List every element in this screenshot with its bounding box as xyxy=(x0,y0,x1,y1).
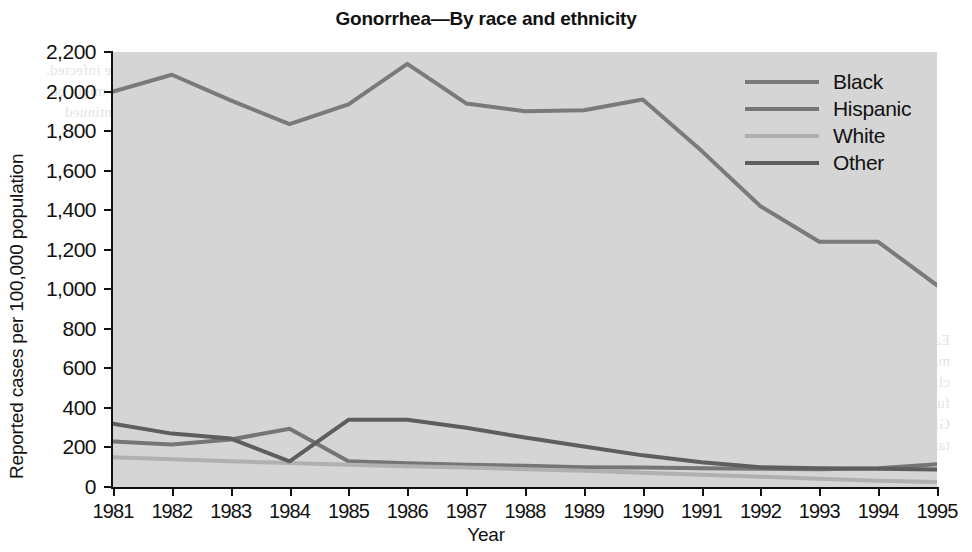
y-tick-label: 2,200 xyxy=(10,40,96,64)
legend-swatch-white xyxy=(745,134,819,138)
y-tick-label: 1,600 xyxy=(10,159,96,183)
chart-figure: of the people in the household are infec… xyxy=(0,0,972,552)
legend-item-hispanic: Hispanic xyxy=(745,95,930,122)
legend-swatch-hispanic xyxy=(745,107,819,111)
y-tick-label: 200 xyxy=(10,435,96,459)
y-tick-label: 800 xyxy=(10,317,96,341)
legend-label: White xyxy=(833,124,885,148)
y-tick-label: 1,400 xyxy=(10,198,96,222)
x-axis-spine xyxy=(111,487,937,489)
legend-label: Black xyxy=(833,70,883,94)
chart-legend: BlackHispanicWhiteOther xyxy=(745,68,930,176)
legend-swatch-other xyxy=(745,161,819,165)
y-tick-label: 2,000 xyxy=(10,80,96,104)
legend-label: Other xyxy=(833,151,884,175)
legend-item-black: Black xyxy=(745,68,930,95)
y-tick-label: 1,000 xyxy=(10,277,96,301)
legend-item-white: White xyxy=(745,122,930,149)
x-tick-mark xyxy=(937,487,939,496)
legend-item-other: Other xyxy=(745,149,930,176)
y-tick-label: 400 xyxy=(10,396,96,420)
y-axis-spine xyxy=(111,52,113,487)
y-tick-label: 0 xyxy=(10,475,96,499)
y-tick-label: 1,200 xyxy=(10,238,96,262)
legend-swatch-black xyxy=(745,80,819,84)
legend-label: Hispanic xyxy=(833,97,911,121)
chart-title: Gonorrhea—By race and ethnicity xyxy=(0,8,972,30)
x-axis-title: Year xyxy=(0,524,972,546)
x-tick-label: 1995 xyxy=(902,500,972,523)
y-tick-label: 600 xyxy=(10,356,96,380)
y-tick-label: 1,800 xyxy=(10,119,96,143)
